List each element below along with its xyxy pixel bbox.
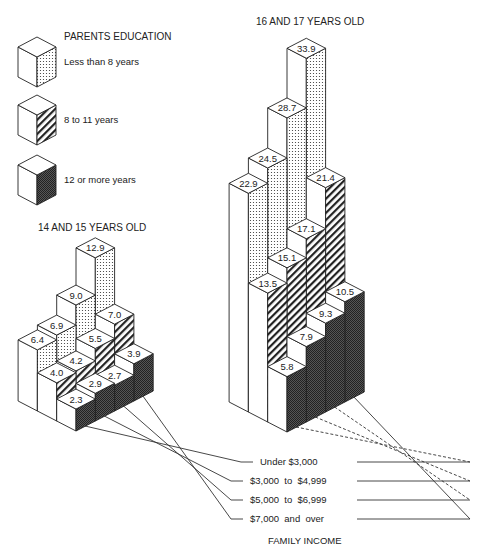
legend-item-less-than-8: Less than 8 years [64,56,139,67]
panel-title-16-17: 16 AND 17 YEARS OLD [256,16,364,27]
leader-line [354,397,470,519]
legend-title: PARENTS EDUCATION [64,31,171,42]
leader-line [104,416,231,481]
income-label-under-3000: Under $3,000 [260,456,318,467]
panel-title-14-15: 14 AND 15 YEARS OLD [38,222,146,233]
bar-left-face [229,183,248,412]
leader-line [85,426,241,462]
bar-right-face [287,367,306,432]
bar-value-label: 5.5 [89,333,102,344]
legend: PARENTS EDUCATION Less than 8 years 8 to… [18,31,171,205]
bar-right-face [345,292,364,402]
bar-left-face [268,367,287,432]
bar-value-label: 9.0 [69,290,82,301]
bar-value-label: 12.9 [86,242,105,253]
bar-value-label: 5.8 [280,361,293,372]
bar-value-label: 21.4 [316,172,335,183]
bar-value-label: 15.1 [278,252,297,263]
income-axis: Under $3,000 $3,000 to $4,999 $5,000 to … [250,456,342,546]
legend-item-12-or-more: 12 or more years [64,174,136,185]
leader-line [143,396,231,519]
bar-value-label: 2.9 [89,378,102,389]
bar-value-label: 2.7 [108,370,121,381]
bar-value-label: 17.1 [297,223,316,234]
bar-right-face [326,313,345,412]
income-label-7000-over: $7,000 and over [250,513,324,524]
leader-line [315,417,470,481]
bar-value-label: 6.4 [31,334,44,345]
bar-right-face [306,337,325,422]
leader-line [124,406,231,500]
bar-value-label: 6.9 [50,320,63,331]
bar-value-label: 2.3 [69,394,82,405]
leader-line [296,427,470,462]
bar-value-label: 4.2 [69,355,82,366]
bar-value-label: 10.5 [336,286,355,297]
legend-item-8-to-11: 8 to 11 years [64,114,118,125]
bar-2-0: 5.8 [268,357,307,432]
bar-value-label: 4.0 [50,367,63,378]
bar-value-label: 3.9 [127,348,140,359]
bar-value-label: 7.9 [300,331,313,342]
bar-value-label: 28.7 [278,102,297,113]
leader-line [335,407,470,500]
income-label-3000-4999: $3,000 to $4,999 [250,475,327,486]
chart-canvas: PARENTS EDUCATION Less than 8 years 8 to… [0,0,492,559]
bar-value-label: 7.0 [108,309,121,320]
bar-value-label: 33.9 [297,43,316,54]
bar-value-label: 13.5 [258,278,277,289]
bar-value-label: 22.9 [239,178,258,189]
bar-value-label: 24.5 [258,153,277,164]
bar-left-face [248,283,267,422]
bar-left-face [18,340,37,411]
legend-swatches [18,37,56,205]
bar-value-label: 9.3 [319,308,332,319]
income-label-5000-6999: $5,000 to $6,999 [250,494,327,505]
panel-14-15-bars: 12.99.07.06.95.53.96.44.22.74.02.92.3 [18,238,153,431]
panel-16-17-bars: 33.928.721.424.517.110.522.915.19.313.57… [229,38,364,432]
income-axis-title: FAMILY INCOME [268,535,342,546]
